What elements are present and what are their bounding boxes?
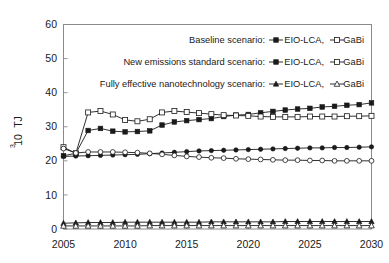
legend-entry1-label: EIO-LCA,: [284, 79, 324, 89]
y-tick-label-30: 30: [45, 120, 57, 132]
marker-filled-circle: [61, 154, 65, 158]
marker-filled-square: [271, 109, 276, 114]
legend-scenario-label: New emissions standard scenario:: [123, 57, 265, 67]
marker-open-square: [295, 114, 300, 119]
marker-open-square: [270, 114, 275, 119]
y-tick-label-40: 40: [45, 86, 57, 98]
marker-open-circle: [357, 158, 362, 163]
marker-filled-square: [147, 129, 152, 134]
marker-open-square: [320, 114, 325, 119]
marker-open-square: [123, 117, 128, 122]
marker-filled-square: [123, 130, 128, 135]
x-tick-label-2010: 2010: [113, 238, 137, 250]
marker-open-square: [98, 109, 103, 114]
marker-filled-square: [320, 105, 325, 110]
y-tick-label-50: 50: [45, 52, 57, 64]
marker-open-circle: [369, 158, 374, 163]
marker-open-square: [160, 110, 165, 115]
legend-entry2-label: GaBi: [343, 57, 364, 67]
x-tick-label-2020: 2020: [237, 238, 261, 250]
marker-filled-square: [98, 126, 103, 131]
marker-open-circle: [320, 158, 325, 163]
marker-filled-square: [369, 101, 374, 106]
marker-open-circle: [110, 150, 115, 155]
marker-filled-square: [197, 117, 202, 122]
marker-open-circle: [73, 151, 78, 156]
marker-open-circle: [308, 158, 313, 163]
marker-filled-square: [283, 108, 288, 113]
marker-filled-circle: [345, 145, 349, 149]
y-tick-label-10: 10: [45, 189, 57, 201]
marker-open-square: [147, 117, 152, 122]
marker-open-square: [335, 60, 340, 65]
marker-open-square: [209, 112, 214, 117]
marker-filled-circle: [308, 146, 312, 150]
marker-filled-square: [110, 129, 115, 134]
x-tick-label-2005: 2005: [52, 238, 76, 250]
marker-filled-square: [172, 120, 177, 125]
marker-open-circle: [209, 155, 214, 160]
legend-entry1-label: EIO-LCA,: [284, 57, 324, 67]
marker-open-circle: [283, 158, 288, 163]
marker-filled-square: [274, 38, 279, 43]
marker-open-circle: [172, 153, 177, 158]
marker-filled-circle: [283, 146, 287, 150]
marker-filled-circle: [209, 148, 213, 152]
marker-open-square: [283, 114, 288, 119]
marker-filled-circle: [320, 146, 324, 150]
marker-open-circle: [98, 150, 103, 155]
marker-open-square: [332, 114, 337, 119]
marker-open-square: [184, 110, 189, 115]
marker-open-square: [246, 113, 251, 118]
chart-figure: 0102030405060 200520102015202020252030 1…: [0, 0, 389, 263]
marker-open-circle: [246, 157, 251, 162]
marker-open-square: [307, 114, 312, 119]
x-tick-label-2025: 2025: [298, 238, 322, 250]
marker-filled-circle: [271, 147, 275, 151]
marker-open-circle: [295, 158, 300, 163]
marker-open-square: [197, 111, 202, 116]
marker-open-circle: [332, 158, 337, 163]
marker-filled-circle: [221, 148, 225, 152]
marker-open-circle: [234, 156, 239, 161]
marker-open-circle: [160, 152, 165, 157]
legend-entry2-label: GaBi: [343, 35, 364, 45]
marker-open-square: [110, 112, 115, 117]
marker-open-circle: [344, 158, 349, 163]
marker-open-circle: [147, 151, 152, 156]
marker-filled-circle: [234, 148, 238, 152]
marker-open-circle: [61, 146, 66, 151]
marker-filled-circle: [197, 149, 201, 153]
y-tick-label-0: 0: [51, 223, 57, 235]
marker-filled-square: [295, 107, 300, 112]
marker-open-circle: [221, 156, 226, 161]
marker-open-circle: [184, 154, 189, 159]
marker-open-square: [221, 113, 226, 118]
marker-filled-square: [86, 128, 91, 133]
y-axis-title-unit: TJ: [12, 116, 24, 128]
x-tick-label-2030: 2030: [360, 238, 384, 250]
marker-open-circle: [123, 150, 128, 155]
marker-open-circle: [258, 157, 263, 162]
x-tick-label-2015: 2015: [175, 238, 199, 250]
legend-scenario-label: Fully effective nanotechnology scenario:: [100, 79, 265, 89]
marker-open-square: [233, 113, 238, 118]
marker-open-square: [135, 119, 140, 124]
marker-open-circle: [86, 150, 91, 155]
marker-open-circle: [271, 157, 276, 162]
marker-filled-square: [160, 123, 165, 128]
marker-open-square: [258, 114, 263, 119]
marker-filled-circle: [369, 145, 373, 149]
marker-filled-square: [308, 106, 313, 111]
legend-entry2-label: GaBi: [343, 79, 364, 89]
marker-filled-circle: [185, 149, 189, 153]
marker-filled-circle: [332, 145, 336, 149]
marker-open-square: [369, 113, 374, 118]
marker-filled-square: [184, 118, 189, 123]
marker-filled-circle: [258, 147, 262, 151]
marker-open-square: [335, 38, 340, 43]
marker-open-square: [86, 110, 91, 115]
marker-filled-circle: [246, 147, 250, 151]
y-tick-label-20: 20: [45, 154, 57, 166]
marker-filled-square: [135, 129, 140, 134]
